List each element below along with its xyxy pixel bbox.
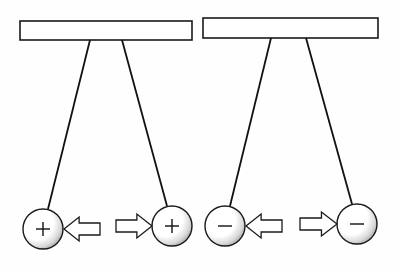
- electrostatic-repulsion-diagram: [0, 0, 402, 272]
- thread: [48, 40, 90, 209]
- positive-pair-panel: [20, 21, 192, 249]
- thread: [230, 38, 271, 206]
- arrow-right-icon: [300, 212, 337, 236]
- support-bar: [20, 21, 192, 40]
- thread: [122, 40, 167, 206]
- support-bar: [203, 18, 378, 38]
- arrow-left-icon: [64, 217, 100, 241]
- thread: [306, 38, 352, 204]
- negative-pair-panel: [203, 18, 378, 246]
- diagram-canvas: [0, 0, 402, 272]
- arrow-right-icon: [116, 214, 152, 238]
- arrow-left-icon: [246, 214, 282, 238]
